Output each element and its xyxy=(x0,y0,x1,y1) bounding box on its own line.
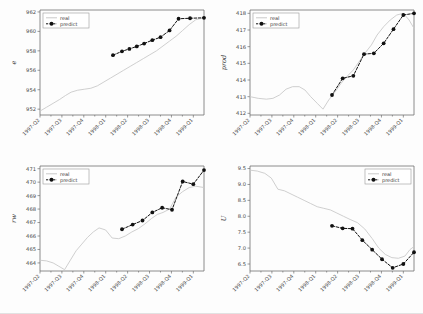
data-point-marker xyxy=(202,168,206,172)
data-point-marker xyxy=(120,49,124,53)
data-point-marker xyxy=(120,227,124,231)
x-tick-label: 1997-Q4 xyxy=(65,117,85,137)
legend-label-predict: predict xyxy=(60,21,78,28)
legend-label-predict: predict xyxy=(60,177,78,184)
y-tick-label: 960 xyxy=(26,28,36,34)
data-point-marker xyxy=(380,257,384,261)
plot-panel-prod: 4124134144154164174181997-Q21997-Q31997-… xyxy=(212,2,421,157)
data-point-marker xyxy=(370,248,374,252)
x-tick-label: 1998-Q1 xyxy=(87,273,107,293)
y-tick-label: 962 xyxy=(26,9,36,15)
plot-panel-rw: 4644654664674684694704711997-Q21997-Q319… xyxy=(2,158,211,313)
x-tick-label: 1998-Q4 xyxy=(152,117,172,137)
legend-swatch-predict-marker xyxy=(372,178,376,182)
y-tick-label: 954 xyxy=(26,87,37,93)
y-tick-label: 956 xyxy=(26,67,36,73)
x-tick-label: 1999-Q1 xyxy=(174,273,194,293)
y-tick-label: 6.5 xyxy=(238,261,246,267)
x-tick-label: 1997-Q4 xyxy=(275,273,295,293)
data-point-marker xyxy=(360,238,364,242)
x-tick-label: 1998-Q1 xyxy=(297,117,317,137)
y-tick-label: 958 xyxy=(26,48,36,54)
x-tick-label: 1998-Q4 xyxy=(152,273,172,293)
y-tick-label: 466 xyxy=(26,233,36,239)
data-point-marker xyxy=(392,27,396,31)
x-tick-label: 1997-Q3 xyxy=(43,273,63,293)
x-tick-label: 1998-Q4 xyxy=(362,273,382,293)
data-point-marker xyxy=(362,52,366,56)
series-line-predict xyxy=(332,226,414,268)
y-tick-label: 467 xyxy=(26,219,36,225)
y-tick-label: 9.5 xyxy=(238,165,246,171)
x-tick-label: 1999-Q1 xyxy=(384,273,404,293)
y-tick-label: 471 xyxy=(26,166,36,172)
x-tick-label: 1999-Q1 xyxy=(174,117,194,137)
legend-label-predict: predict xyxy=(270,21,288,28)
x-tick-label: 1998-Q3 xyxy=(131,273,151,293)
data-point-marker xyxy=(191,182,195,186)
data-point-marker xyxy=(142,42,146,46)
data-point-marker xyxy=(202,16,206,20)
y-tick-label: 416 xyxy=(236,44,246,50)
y-tick-label: 464 xyxy=(26,260,37,266)
x-tick-label: 1998-Q2 xyxy=(109,273,129,293)
y-tick-label: 412 xyxy=(236,110,246,116)
data-point-marker xyxy=(170,208,174,212)
x-tick-label: 1997-Q3 xyxy=(253,117,273,137)
y-tick-label: 468 xyxy=(26,206,36,212)
y-tick-label: 417 xyxy=(236,27,246,33)
data-point-marker xyxy=(401,13,405,17)
y-tick-label: 413 xyxy=(236,94,246,100)
x-tick-label: 1997-Q2 xyxy=(21,273,41,293)
y-tick-label: 414 xyxy=(236,77,247,83)
data-point-marker xyxy=(412,250,416,254)
data-point-marker xyxy=(401,262,405,266)
data-point-marker xyxy=(351,74,355,78)
data-point-marker xyxy=(341,226,345,230)
y-tick-label: 415 xyxy=(236,60,246,66)
data-point-marker xyxy=(141,219,145,223)
y-axis-label: rw xyxy=(10,214,18,223)
figure-canvas: 9529549569589609621997-Q21997-Q31997-Q41… xyxy=(0,0,423,314)
legend-swatch-predict-marker xyxy=(260,22,264,26)
y-tick-label: 470 xyxy=(26,179,36,185)
x-tick-label: 1997-Q3 xyxy=(43,117,63,137)
data-point-marker xyxy=(341,76,345,80)
data-point-marker xyxy=(330,93,334,97)
y-axis-label: e xyxy=(10,60,18,64)
series-line-real xyxy=(40,18,204,111)
y-tick-label: 7.5 xyxy=(238,229,246,235)
x-tick-label: 1998-Q1 xyxy=(297,273,317,293)
data-point-marker xyxy=(177,17,181,21)
y-tick-label: 952 xyxy=(26,106,36,112)
data-point-marker xyxy=(382,41,386,45)
y-tick-label: 418 xyxy=(236,10,246,16)
legend-label-predict: predict xyxy=(382,177,400,184)
y-axis-label: prod xyxy=(220,55,228,71)
plot-panel-u: 6.57.07.58.08.59.09.51997-Q21997-Q31997-… xyxy=(212,158,421,313)
y-tick-label: 465 xyxy=(26,246,36,252)
y-tick-label: 8.0 xyxy=(238,213,246,219)
series-line-predict xyxy=(122,170,204,229)
x-tick-label: 1997-Q4 xyxy=(275,117,295,137)
data-point-marker xyxy=(412,11,416,15)
data-point-marker xyxy=(131,223,135,227)
data-point-marker xyxy=(135,45,139,49)
legend-swatch-predict-marker xyxy=(50,178,54,182)
data-point-marker xyxy=(150,211,154,215)
x-tick-label: 1998-Q3 xyxy=(341,117,361,137)
x-tick-label: 1997-Q2 xyxy=(231,273,251,293)
data-point-marker xyxy=(188,16,192,20)
data-point-marker xyxy=(127,47,131,51)
x-tick-label: 1998-Q3 xyxy=(131,117,151,137)
x-tick-label: 1998-Q2 xyxy=(319,117,339,137)
data-point-marker xyxy=(391,266,395,270)
x-tick-label: 1997-Q3 xyxy=(253,273,273,293)
legend-swatch-predict-marker xyxy=(50,22,54,26)
data-point-marker xyxy=(181,180,185,184)
data-point-marker xyxy=(372,51,376,55)
x-tick-label: 1997-Q2 xyxy=(231,117,251,137)
data-point-marker xyxy=(159,35,163,39)
x-tick-label: 1998-Q2 xyxy=(109,117,129,137)
y-axis-label: U xyxy=(220,215,228,221)
